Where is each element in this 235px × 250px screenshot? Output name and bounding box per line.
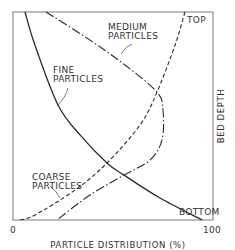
x-tick-100: 100 [203,225,221,235]
medium-leader-line [121,44,132,54]
x-tick-0: 0 [10,225,16,235]
fine-label-line2: PARTICLES [53,74,103,84]
particle-distribution-chart: MEDIUM PARTICLES FINE PARTICLES COARSE P… [0,0,235,250]
coarse-label-line2: PARTICLES [32,181,82,191]
bottom-label: BOTTOM [179,207,220,217]
fine-leader-line [57,88,68,106]
top-label: TOP [186,15,206,25]
medium-label-line2: PARTICLES [108,31,158,41]
x-axis-title: PARTICLE DISTRIBUTION (%) [50,240,185,250]
y-axis-title: BED DEPTH [216,89,226,143]
